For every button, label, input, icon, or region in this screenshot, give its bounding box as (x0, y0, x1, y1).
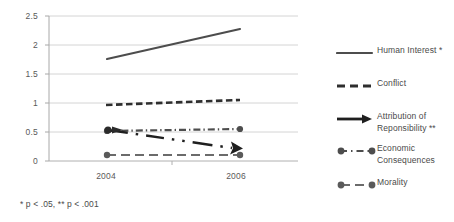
legend-swatch-arrow-icon (336, 111, 376, 123)
legend-swatch-dashdot-circle-icon (336, 143, 376, 155)
legend-item-conflict: Conflict (336, 78, 454, 90)
legend-swatch-dashed-icon (336, 78, 376, 90)
legend-swatch-solid-icon (336, 45, 376, 57)
gridlines (49, 16, 298, 132)
y-tick-label: 1.5 (4, 70, 38, 79)
legend-label: Human Interest * (376, 45, 442, 57)
legend-swatch-dotted-circle-icon (336, 177, 376, 189)
legend-item-human-interest: Human Interest * (336, 45, 454, 57)
y-tick-label: 2.5 (4, 12, 38, 21)
series-line-attribution-of-responsibility (108, 130, 243, 155)
y-tick-label: 0.5 (4, 128, 38, 137)
legend-item-economic-consequences: Economic Consequences (336, 143, 454, 166)
x-tick-label: 2004 (86, 172, 126, 181)
y-tick-label: 2 (4, 41, 38, 50)
legend-label: Morality (376, 177, 408, 189)
series-line-conflict (106, 100, 240, 105)
y-axis-ticks (45, 16, 49, 161)
line-chart: 2.5 2 1.5 1 0.5 0 2004 2006 * p < .05, *… (0, 0, 454, 222)
y-tick-label: 0 (4, 157, 38, 166)
legend-item-attribution-of-responsibility: Attribution of Reponsibility ** (336, 111, 454, 134)
legend-label: Conflict (376, 78, 406, 90)
legend-item-morality: Morality (336, 177, 454, 189)
legend: Human Interest * Conflict Attribution of… (336, 0, 454, 222)
series-line-human-interest (107, 29, 240, 59)
y-tick-label: 1 (4, 99, 38, 108)
x-tick-label: 2006 (216, 172, 256, 181)
significance-footnote: * p < .05, ** p < .001 (20, 199, 99, 210)
series-line-morality (104, 152, 243, 158)
legend-label: Economic Consequences (376, 143, 435, 166)
legend-label: Attribution of Reponsibility ** (376, 111, 436, 134)
